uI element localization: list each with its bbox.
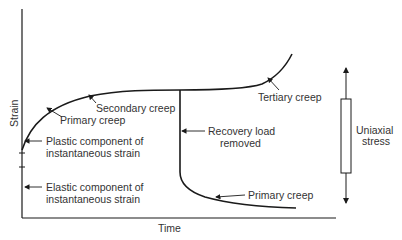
- primary-creep-lower-leader: [216, 195, 245, 197]
- secondary-creep-label: Secondary creep: [96, 102, 176, 114]
- plastic-label-line1: Plastic component of: [46, 135, 144, 147]
- plastic-label-line2: instantaneous strain: [46, 147, 140, 159]
- recovery-label-line2: removed: [220, 137, 261, 149]
- creep-diagram: Strain Time Primary creep Secondary cree…: [0, 0, 402, 240]
- tertiary-creep-label: Tertiary creep: [258, 91, 322, 103]
- primary-creep-upper-label: Primary creep: [60, 114, 126, 126]
- elastic-label-line2: instantaneous strain: [46, 193, 140, 205]
- specimen-label-line2: stress: [362, 135, 390, 147]
- x-axis-label: Time: [158, 222, 181, 234]
- y-axis-label: Strain: [8, 99, 20, 127]
- tertiary-creep-leader: [268, 78, 279, 90]
- primary-creep-lower-label: Primary creep: [248, 189, 314, 201]
- elastic-label-line1: Elastic component of: [46, 181, 144, 193]
- specimen: [341, 68, 351, 203]
- specimen-bar: [341, 99, 351, 173]
- recovery-label-line1: Recovery load: [208, 125, 275, 137]
